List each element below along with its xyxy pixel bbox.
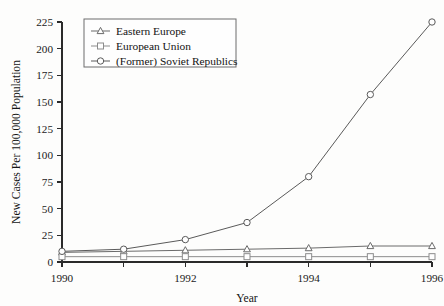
data-point-marker <box>244 254 250 260</box>
legend-square-icon <box>98 43 104 49</box>
x-axis-title: Year <box>236 292 258 305</box>
x-axis-ticks: 1990199219941996 <box>51 262 444 284</box>
x-tick-label: 1996 <box>421 272 444 284</box>
legend-item-label: (Former) Soviet Republics <box>116 55 238 68</box>
chart-legend: Eastern EuropeEuropean Union(Former) Sov… <box>84 19 238 68</box>
legend-item-label: European Union <box>116 40 191 52</box>
y-tick-label: 225 <box>36 16 53 28</box>
y-tick-label: 175 <box>36 69 53 81</box>
data-point-marker <box>367 254 373 260</box>
y-axis-title: New Cases Per 100,000 Population <box>10 60 23 224</box>
data-point-marker <box>429 19 435 25</box>
y-tick-label: 25 <box>42 229 54 241</box>
y-axis-ticks: 0255075100125150175200225 <box>36 16 62 268</box>
chart-page: 0255075100125150175200225 19901992199419… <box>0 0 444 306</box>
y-tick-label: 200 <box>36 43 53 55</box>
legend-item-label: Eastern Europe <box>116 25 186 37</box>
x-tick-label: 1992 <box>174 272 196 284</box>
data-point-marker <box>182 236 188 242</box>
data-point-marker <box>182 254 188 260</box>
y-tick-label: 50 <box>42 203 54 215</box>
legend-circle-icon <box>97 58 103 64</box>
data-point-marker <box>59 248 65 254</box>
data-point-marker <box>120 246 126 252</box>
line-chart: 0255075100125150175200225 19901992199419… <box>0 0 444 306</box>
data-point-marker <box>367 91 373 97</box>
data-point-marker <box>305 173 311 179</box>
data-point-marker <box>306 254 312 260</box>
data-point-marker <box>429 254 435 260</box>
y-tick-label: 100 <box>36 149 53 161</box>
y-tick-label: 150 <box>36 96 53 108</box>
y-tick-label: 0 <box>47 256 53 268</box>
y-tick-label: 125 <box>36 123 53 135</box>
data-point-marker <box>121 254 127 260</box>
x-tick-label: 1990 <box>51 272 74 284</box>
x-tick-label: 1994 <box>297 272 320 284</box>
data-point-marker <box>244 219 250 225</box>
y-tick-label: 75 <box>42 176 54 188</box>
